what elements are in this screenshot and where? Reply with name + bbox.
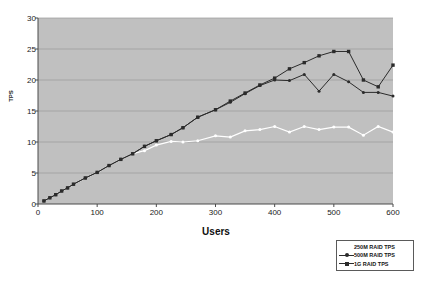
data-point	[317, 54, 320, 57]
data-point	[377, 91, 380, 94]
data-point	[143, 145, 146, 148]
data-point	[332, 126, 335, 129]
data-point	[377, 125, 380, 128]
legend-item: 250M RAID TPS	[339, 243, 411, 251]
data-point	[143, 149, 146, 152]
x-axis-title: Users	[38, 226, 394, 237]
data-point	[196, 116, 199, 119]
data-point	[48, 196, 51, 199]
data-point	[170, 140, 173, 143]
data-point	[54, 193, 57, 196]
legend-item: 1G RAID TPS	[339, 260, 411, 268]
data-point	[196, 139, 199, 142]
x-tick-label: 500	[317, 208, 351, 217]
data-point	[60, 189, 63, 192]
data-point	[95, 171, 98, 174]
legend-marker-icon	[339, 243, 354, 251]
data-point	[244, 129, 247, 132]
x-tick-label: 200	[139, 208, 173, 217]
data-point	[347, 80, 350, 83]
x-tick-label: 100	[80, 208, 114, 217]
data-point	[258, 83, 261, 86]
data-point	[155, 139, 158, 142]
data-point	[392, 131, 395, 134]
x-tick-label: 600	[376, 208, 410, 217]
data-point	[243, 91, 246, 94]
data-point	[377, 85, 380, 88]
data-point	[229, 99, 232, 102]
data-point	[72, 182, 75, 185]
data-point	[288, 131, 291, 134]
data-point	[303, 125, 306, 128]
data-point	[362, 91, 365, 94]
data-point	[332, 73, 335, 76]
data-point	[119, 158, 122, 161]
data-point	[347, 126, 350, 129]
data-point	[288, 67, 291, 70]
data-point	[131, 152, 134, 155]
data-point	[181, 126, 184, 129]
data-point	[229, 136, 232, 139]
chart-container: TPS 051015202530 0100200300400500600 Use…	[0, 0, 421, 283]
data-point	[107, 164, 110, 167]
data-point	[303, 73, 306, 76]
chart-legend: 250M RAID TPS500M RAID TPS1G RAID TPS	[336, 240, 414, 271]
data-point	[391, 63, 394, 66]
data-point	[318, 128, 321, 131]
data-point	[66, 186, 69, 189]
legend-label: 500M RAID TPS	[354, 251, 395, 259]
data-point	[214, 108, 217, 111]
data-point	[362, 78, 365, 81]
data-point	[273, 76, 276, 79]
data-point	[258, 128, 261, 131]
data-point	[42, 199, 45, 202]
data-point	[155, 144, 158, 147]
data-point	[181, 141, 184, 144]
legend-label: 1G RAID TPS	[354, 260, 389, 268]
data-point	[273, 125, 276, 128]
legend-label: 250M RAID TPS	[354, 243, 395, 251]
legend-marker-icon	[339, 251, 354, 259]
data-point	[392, 95, 395, 98]
data-point	[288, 79, 291, 82]
legend-marker-icon	[339, 260, 354, 268]
data-point	[214, 134, 217, 137]
data-point	[362, 134, 365, 137]
data-point	[169, 133, 172, 136]
data-point	[318, 90, 321, 93]
legend-item: 500M RAID TPS	[339, 251, 411, 259]
data-point	[332, 50, 335, 53]
x-tick-label: 0	[21, 208, 55, 217]
x-tick-label: 400	[258, 208, 292, 217]
x-tick-label: 300	[199, 208, 233, 217]
data-point	[347, 50, 350, 53]
data-point	[303, 61, 306, 64]
data-point	[84, 176, 87, 179]
